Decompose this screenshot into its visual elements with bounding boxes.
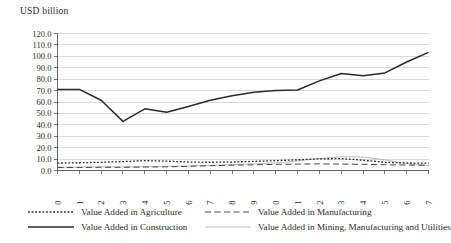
y-axis-tick-label: 100.0 [32,51,51,61]
legend-label-construction: Value Added in Construction [81,222,187,232]
legend-label-agriculture: Value Added in Agriculture [81,207,182,217]
legend-key-solid-thick-icon [28,222,74,232]
legend-key-dashed-icon [205,207,251,217]
y-axis-tick-label: 0.0 [41,166,52,176]
legend-item-construction: Value Added in Construction [28,219,187,234]
plot-area: 0.010.020.030.040.050.060.070.080.090.01… [0,0,438,205]
y-axis-tick-label: 120.0 [32,29,51,39]
y-axis-tick-label: 50.0 [36,108,51,118]
legend-key-dotted-icon [28,207,74,217]
y-axis-tick-label: 70.0 [36,86,51,96]
y-axis-tick-label: 80.0 [36,74,51,84]
y-axis-tick-label: 90.0 [36,63,51,73]
legend-key-solid-thin-icon [205,222,251,232]
legend-label-mining: Value Added in Mining, Manufacturing and… [258,222,451,232]
y-axis-tick-label: 20.0 [36,143,51,153]
y-axis-tick-label: 60.0 [36,97,51,107]
y-axis-tick-label: 110.0 [32,40,51,50]
y-axis-tick-label: 10.0 [36,154,51,164]
legend-label-manufacturing: Value Added in Manufacturing [258,207,372,217]
y-axis-tick-label: 40.0 [36,120,51,130]
y-axis-tick-label: 30.0 [36,131,51,141]
chart-legend: Value Added in Agriculture Value Added i… [0,203,438,243]
legend-item-agriculture: Value Added in Agriculture [28,204,182,219]
series-line [58,52,429,121]
legend-item-manufacturing: Value Added in Manufacturing [205,204,372,219]
legend-item-mining: Value Added in Mining, Manufacturing and… [205,219,451,234]
